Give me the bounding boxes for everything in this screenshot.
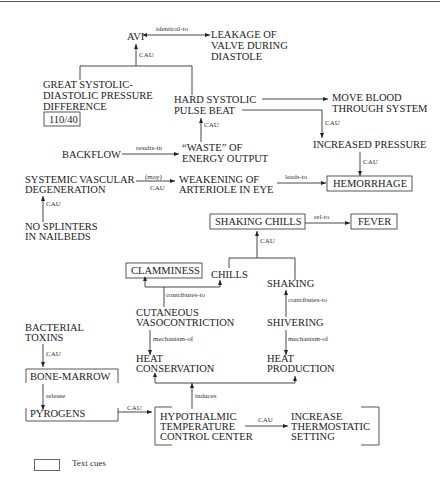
node-hard-pulse: HARD SYSTOLIC PULSE BEAT — [174, 94, 259, 116]
node-leakage: LEAKAGE OF VALVE DURING DIASTOLE — [211, 29, 290, 62]
node-systemic: SYSTEMIC VASCULAR DEGENERATION — [25, 174, 137, 195]
node-heat-conservation-line: CONSERVATION — [136, 363, 215, 374]
node-great-pressure-line: DIASTOLIC PRESSURE — [43, 90, 153, 101]
node-no-splinters: NO SPLINTERS IN NAILBEDS — [25, 221, 100, 242]
node-increase-thermo-line: SETTING — [291, 431, 335, 442]
node-systemic-line: DEGENERATION — [25, 184, 106, 195]
label-contributes-to: contributes-to — [288, 296, 327, 304]
label-cau: CAU — [258, 416, 273, 424]
bp-value: 110/40 — [49, 114, 78, 125]
node-increase-thermo: INCREASE THERMOSTATIC SETTING — [291, 411, 373, 442]
label-mechanism-of: mechanism-of — [153, 335, 194, 343]
node-move-blood-line: THROUGH SYSTEM — [332, 103, 428, 114]
node-cutaneous: CUTANEOUS VASOCONTRICTION — [136, 307, 235, 328]
node-great-pressure-line: DIFFERENCE — [43, 101, 107, 112]
label-cau: CAU — [46, 200, 61, 208]
node-hard-pulse-line: HARD SYSTOLIC — [174, 94, 256, 105]
label-cau: CAU — [150, 184, 165, 192]
edge-cau-increased-pressure — [242, 110, 322, 138]
legend-box-icon — [34, 459, 60, 471]
concept-diagram: AVI identical-to LEAKAGE OF VALVE DURING… — [0, 0, 447, 495]
label-rel-to: rel-to — [314, 213, 330, 221]
node-no-splinters-line: IN NAILBEDS — [25, 231, 91, 242]
node-pyrogens: PYROGENS — [30, 408, 86, 419]
node-bacterial-line: TOXINS — [25, 332, 63, 343]
node-shaking-chills: SHAKING CHILLS — [215, 216, 302, 227]
node-shivering: SHIVERING — [267, 317, 324, 328]
label-cau: CAU — [363, 158, 378, 166]
label-results-in: results-in — [136, 144, 163, 152]
node-waste-line: ENERGY OUTPUT — [182, 153, 269, 164]
edge-induces-bracket — [155, 376, 295, 383]
node-backflow: BACKFLOW — [62, 149, 121, 160]
label-cau: CAU — [127, 404, 142, 412]
node-move-blood-line: MOVE BLOOD — [332, 92, 402, 103]
edge-contributes-bracket — [145, 280, 220, 287]
node-heat-production-line: PRODUCTION — [267, 363, 335, 374]
node-avi: AVI — [127, 31, 145, 42]
legend-label: Text cues — [72, 458, 106, 468]
node-leakage-line: LEAKAGE OF — [211, 29, 277, 40]
label-release: release — [46, 392, 65, 400]
label-cau: CAU — [260, 237, 275, 245]
node-great-pressure-line: GREAT SYSTOLIC- — [43, 79, 133, 90]
node-bacterial: BACTERIAL TOXINS — [25, 322, 86, 343]
node-increased-pressure: INCREASED PRESSURE — [313, 139, 426, 150]
node-great-pressure: GREAT SYSTOLIC- DIASTOLIC PRESSURE DIFFE… — [43, 79, 155, 112]
label-leads-to: leads-to — [285, 173, 308, 181]
label-mechanism-of: mechanism-of — [288, 335, 329, 343]
node-waste-line: “WASTE” OF — [182, 142, 243, 153]
label-cau: CAU — [139, 51, 154, 59]
node-shaking: SHAKING — [267, 278, 315, 289]
label-contributes-to: contributes-to — [166, 291, 205, 299]
node-chills: CHILLS — [211, 269, 248, 280]
node-move-blood: MOVE BLOOD THROUGH SYSTEM — [332, 92, 428, 114]
label-cau: CAU — [204, 121, 219, 129]
node-hypothalmic: HYPOTHALMIC TEMPERATURE CONTROL CENTER — [160, 411, 253, 442]
node-fever: FEVER — [358, 216, 391, 227]
node-waste: “WASTE” OF ENERGY OUTPUT — [182, 142, 269, 164]
node-bone-marrow: BONE-MARROW — [30, 371, 111, 382]
node-hemorrhage: HEMORRHAGE — [333, 178, 407, 189]
node-weakening: WEAKENING OF ARTERIOLE IN EYE — [179, 174, 273, 195]
label-may: (may) — [145, 173, 162, 181]
node-cutaneous-line: VASOCONTRICTION — [136, 317, 235, 328]
node-weakening-line: ARTERIOLE IN EYE — [179, 184, 273, 195]
label-cau: CAU — [325, 119, 340, 127]
node-heat-production: HEAT PRODUCTION — [267, 353, 335, 374]
label-cau: CAU — [46, 350, 61, 358]
node-hard-pulse-line: PULSE BEAT — [174, 105, 236, 116]
label-induces: induces — [195, 392, 217, 400]
node-heat-conservation: HEAT CONSERVATION — [136, 353, 215, 374]
node-leakage-line: VALVE DURING — [211, 40, 288, 51]
node-clamminess: CLAMMINESS — [131, 265, 200, 276]
node-hypothalmic-line: CONTROL CENTER — [160, 431, 253, 442]
node-leakage-line: DIASTOLE — [211, 51, 262, 62]
label-identical-to: identical-to — [156, 25, 188, 33]
